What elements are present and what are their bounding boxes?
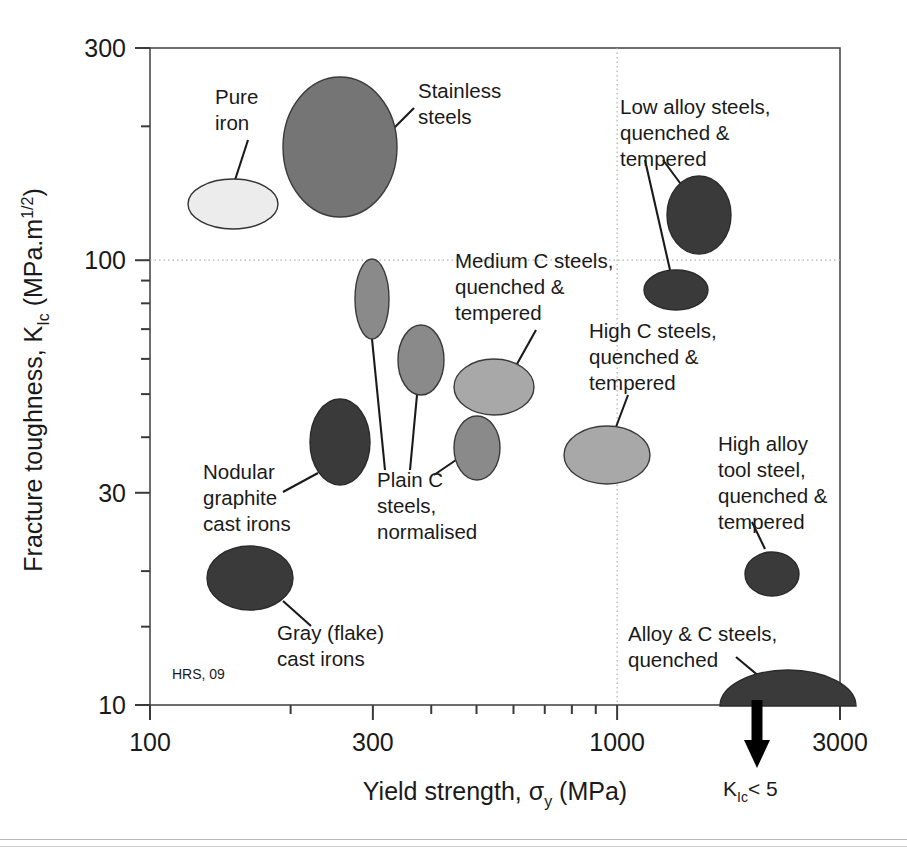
bubble-4[interactable] <box>355 259 389 339</box>
x-tick-label-100: 100 <box>129 728 171 756</box>
bubble-2[interactable] <box>667 176 731 254</box>
bubble-10[interactable] <box>207 546 293 610</box>
x-tick-label-300: 300 <box>352 728 394 756</box>
x-axis-title: Yield strength, σy (MPa) <box>363 777 627 810</box>
ashby-chart-figure: 103010030010030010003000Fracture toughne… <box>0 0 907 847</box>
y-tick-label-100: 100 <box>84 246 126 274</box>
chart-svg: 103010030010030010003000Fracture toughne… <box>0 0 907 847</box>
page-bottom-rule <box>0 839 907 847</box>
bubble-6[interactable] <box>454 416 500 480</box>
y-tick-label-300: 300 <box>84 34 126 62</box>
y-tick-label-30: 30 <box>98 479 126 507</box>
bubble-1[interactable] <box>283 77 397 217</box>
bubble-0[interactable] <box>188 179 278 229</box>
y-axis-title: Fracture toughness, KIc (MPa.m1/2) <box>19 188 52 571</box>
klc-annotation: KIc< 5 <box>723 777 778 805</box>
bubble-5[interactable] <box>398 325 444 395</box>
y-tick-label-10: 10 <box>98 691 126 719</box>
bubble-9[interactable] <box>310 399 370 485</box>
y-axis-title-text: Fracture toughness, KIc (MPa.m1/2) <box>19 188 52 571</box>
bubble-7[interactable] <box>454 359 534 415</box>
credit-text: HRS, 09 <box>172 666 225 682</box>
klc-arrow-head <box>744 740 770 768</box>
bubble-11[interactable] <box>745 552 799 596</box>
bubble-8[interactable] <box>564 426 650 484</box>
bubble-3[interactable] <box>644 270 708 310</box>
x-tick-label-1000: 1000 <box>589 728 645 756</box>
x-tick-label-3000: 3000 <box>812 728 868 756</box>
